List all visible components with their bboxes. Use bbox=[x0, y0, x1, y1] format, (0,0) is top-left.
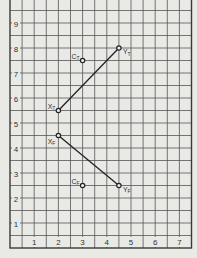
point-label: CF bbox=[71, 178, 79, 187]
y-tick-label: 9 bbox=[14, 20, 19, 29]
grid bbox=[10, 0, 192, 248]
point-x-f bbox=[56, 133, 60, 137]
y-tick-label: 8 bbox=[14, 45, 19, 54]
point-c-t bbox=[80, 58, 84, 62]
point-label: CT bbox=[71, 53, 79, 62]
point-x-t bbox=[56, 108, 60, 112]
x-tick-label: 1 bbox=[32, 238, 37, 247]
y-tick-label: 5 bbox=[14, 120, 19, 129]
point-label: XF bbox=[48, 138, 56, 147]
x-tick-label: 6 bbox=[153, 238, 158, 247]
y-tick-label: 1 bbox=[14, 220, 19, 229]
point-y-f bbox=[117, 183, 121, 187]
y-tick-label: 4 bbox=[14, 145, 19, 154]
y-tick-label: 6 bbox=[14, 95, 19, 104]
x-tick-label: 2 bbox=[56, 238, 61, 247]
point-label: YT bbox=[123, 48, 131, 57]
series-line-t bbox=[58, 48, 119, 111]
tick-labels: 1234567891234567 bbox=[12, 18, 183, 247]
y-tick-label: 3 bbox=[14, 170, 19, 179]
chart: 1234567891234567 XTYTXFYFCTCF bbox=[0, 0, 197, 258]
point-c-f bbox=[80, 183, 84, 187]
point-y-t bbox=[117, 46, 121, 50]
x-tick-label: 5 bbox=[129, 238, 134, 247]
data-lines bbox=[58, 48, 119, 186]
x-tick-label: 3 bbox=[80, 238, 85, 247]
point-label: XT bbox=[48, 103, 56, 112]
y-tick-label: 2 bbox=[14, 195, 19, 204]
point-label: YF bbox=[123, 186, 131, 195]
x-tick-label: 4 bbox=[105, 238, 110, 247]
data-points: XTYTXFYFCTCF bbox=[48, 46, 131, 194]
chart-canvas: 1234567891234567 XTYTXFYFCTCF bbox=[0, 0, 197, 258]
y-tick-label: 7 bbox=[14, 70, 19, 79]
x-tick-label: 7 bbox=[177, 238, 182, 247]
